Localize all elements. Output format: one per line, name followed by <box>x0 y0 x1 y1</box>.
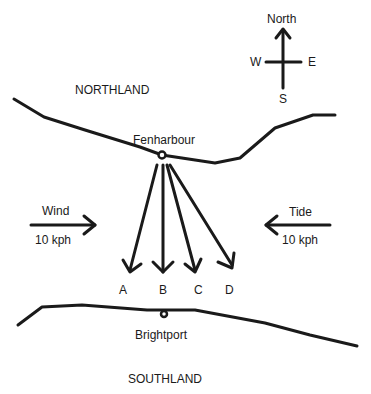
route-label-d: D <box>225 284 234 296</box>
route-arrow-a <box>130 165 157 270</box>
tide-speed: 10 kph <box>282 234 318 246</box>
route-label-b: B <box>159 284 167 296</box>
northland-label: NORTHLAND <box>75 84 149 96</box>
route-label-c: C <box>194 284 203 296</box>
northland-coastline <box>14 99 335 163</box>
fenharbour-label: Fenharbour <box>133 134 195 146</box>
route-label-a: A <box>119 284 127 296</box>
compass-west-label: W <box>250 56 261 68</box>
compass-north-label: North <box>267 13 296 25</box>
compass-south-label: S <box>279 93 287 105</box>
brightport-marker <box>161 311 167 317</box>
wind-label: Wind <box>42 205 69 217</box>
compass-east-label: E <box>308 56 316 68</box>
southland-label: SOUTHLAND <box>128 373 202 385</box>
wind-speed: 10 kph <box>35 234 71 246</box>
fenharbour-marker <box>159 152 166 159</box>
brightport-label: Brightport <box>135 329 187 341</box>
southland-coastline <box>18 305 357 346</box>
tide-label: Tide <box>289 206 312 218</box>
